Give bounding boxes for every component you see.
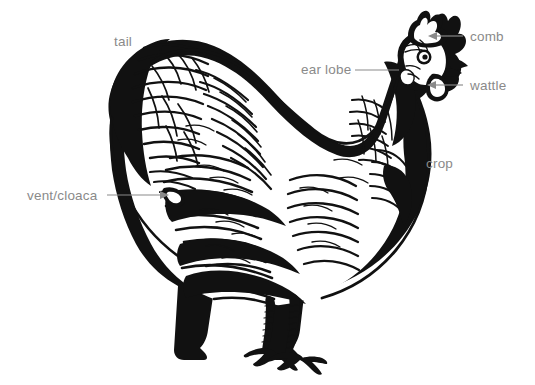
label-ear-lobe[interactable]: ear lobe (301, 62, 351, 77)
annotation-tail[interactable]: tail (114, 34, 132, 49)
label-crop[interactable]: crop (426, 156, 453, 171)
annotation-crop[interactable]: crop (426, 156, 453, 171)
diagram-canvas: tail ear lobe comb wattle crop (0, 0, 535, 385)
label-vent-cloaca[interactable]: vent/cloaca (27, 188, 98, 203)
label-tail[interactable]: tail (114, 34, 132, 49)
chicken-anatomy-diagram: tail ear lobe comb wattle crop (0, 0, 535, 385)
label-comb[interactable]: comb (470, 29, 504, 44)
eye-pupil (422, 54, 427, 59)
label-wattle[interactable]: wattle (469, 78, 506, 93)
